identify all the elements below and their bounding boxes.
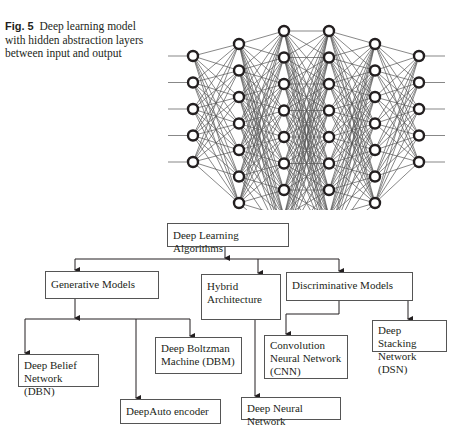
discriminative-models-box: Discriminative Models bbox=[286, 272, 413, 301]
hybrid-label-line2: Architecture bbox=[207, 293, 275, 306]
generative-models-label: Generative Models bbox=[51, 278, 135, 290]
cnn-label-line3: (CNN) bbox=[270, 365, 342, 378]
generative-models-box: Generative Models bbox=[45, 271, 159, 299]
hybrid-architecture-box: Hybrid Architecture bbox=[201, 274, 281, 320]
root-box-deep-learning-algorithms: Deep Learning Algorithms bbox=[167, 223, 289, 247]
hybrid-label-line1: Hybrid bbox=[207, 280, 275, 293]
dbm-label-line2: Machine (DBM) bbox=[161, 355, 236, 368]
dsn-label-line2: Network (DSN) bbox=[378, 350, 441, 376]
deep-autoencoder-box: DeepAuto encoder bbox=[120, 399, 221, 424]
deep-boltzmann-machine-box: Deep Boltzman Machine (DBM) bbox=[155, 337, 242, 374]
dbn-label-line2: Network (DBN) bbox=[24, 372, 93, 398]
discriminative-models-label: Discriminative Models bbox=[292, 279, 393, 291]
dsn-label-line1: Deep Stacking bbox=[378, 324, 441, 350]
deep-stacking-network-box: Deep Stacking Network (DSN) bbox=[372, 320, 447, 352]
autoencoder-label: DeepAuto encoder bbox=[126, 405, 209, 417]
cnn-label-line1: Convolution bbox=[270, 339, 342, 352]
deep-belief-network-box: Deep Belief Network (DBN) bbox=[18, 354, 99, 387]
deep-neural-network-box: Deep Neural Network bbox=[241, 397, 341, 420]
dbn-label-line1: Deep Belief bbox=[24, 359, 93, 372]
cnn-label-line2: Neural Network bbox=[270, 352, 342, 365]
dbm-label-line1: Deep Boltzman bbox=[161, 342, 236, 355]
convolution-neural-network-box: Convolution Neural Network (CNN) bbox=[264, 335, 348, 379]
